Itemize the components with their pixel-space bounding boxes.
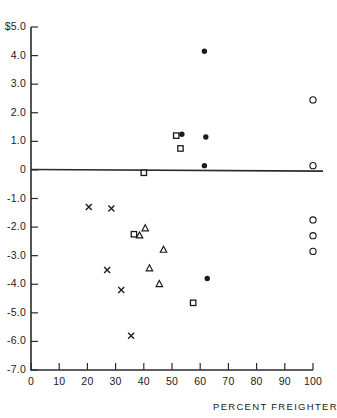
y-axis-tick-label: 0: [0, 163, 26, 175]
axis-frame: [31, 27, 313, 370]
series-open-triangle: [136, 225, 166, 287]
x-axis-title: PERCENT FREIGHTER: [213, 401, 337, 412]
y-axis-tick-label: 4.0: [0, 49, 26, 61]
data-point-open-square: [174, 133, 179, 138]
data-point-cross: [86, 204, 92, 210]
axes-layer: [31, 27, 313, 370]
zero-reference-line: [31, 170, 323, 172]
data-point-cross: [108, 206, 114, 212]
y-axis-tick-label: -5.0: [0, 306, 26, 318]
data-point-cross: [128, 333, 134, 339]
data-point-open-square: [131, 232, 136, 237]
y-axis-tick-label: -1.0: [0, 192, 26, 204]
y-axis-tick-label: -7.0: [0, 363, 26, 375]
scatter-plot-figure: $5.04.03.02.01.00-1.0-2.0-3.0-4.0-5.0-6.…: [0, 0, 337, 418]
x-axis-tick-label: 40: [128, 375, 160, 387]
data-point-filled-circle: [202, 163, 207, 168]
series-open-circle: [310, 97, 316, 255]
zero-reference-line-stroke: [31, 170, 323, 172]
data-point-open-triangle: [156, 281, 162, 287]
y-axis-tick-label: 2.0: [0, 106, 26, 118]
x-axis-tick-label: 80: [241, 375, 273, 387]
data-point-open-circle: [310, 248, 316, 254]
data-point-open-circle: [310, 217, 316, 223]
data-point-open-circle: [310, 97, 316, 103]
x-axis-tick-label: 60: [184, 375, 216, 387]
data-point-filled-circle: [205, 276, 210, 281]
data-point-cross: [118, 287, 124, 293]
y-axis-tick-label: 3.0: [0, 77, 26, 89]
y-axis-tick-label: -4.0: [0, 277, 26, 289]
x-axis-tick-label: 20: [71, 375, 103, 387]
data-markers-layer: [86, 49, 316, 339]
x-axis-tick-label: 30: [100, 375, 132, 387]
series-open-square: [131, 133, 196, 306]
data-point-open-square: [141, 170, 146, 175]
data-point-open-triangle: [142, 225, 148, 231]
y-axis-tick-label: 1.0: [0, 134, 26, 146]
y-axis-tick-label: -3.0: [0, 249, 26, 261]
data-point-open-circle: [310, 233, 316, 239]
y-axis-tick-label: $5.0: [0, 20, 26, 32]
x-axis-tick-label: 70: [212, 375, 244, 387]
data-point-filled-circle: [202, 49, 207, 54]
x-axis-tick-label: 10: [43, 375, 75, 387]
x-axis-tick-label: 100: [297, 375, 329, 387]
data-point-open-circle: [310, 163, 316, 169]
data-point-filled-circle: [203, 134, 208, 139]
data-point-open-triangle: [146, 265, 152, 271]
data-point-open-square: [190, 300, 195, 305]
series-filled-circle: [179, 49, 210, 282]
series-cross: [86, 204, 134, 339]
data-point-open-square: [178, 146, 183, 151]
data-point-open-triangle: [160, 246, 166, 252]
y-axis-tick-label: -2.0: [0, 220, 26, 232]
plot-canvas: [0, 0, 337, 418]
x-axis-tick-label: 90: [269, 375, 301, 387]
x-axis-tick-label: 50: [156, 375, 188, 387]
data-point-open-triangle: [136, 232, 142, 238]
y-axis-tick-label: -6.0: [0, 334, 26, 346]
x-axis-tick-label: 0: [15, 375, 47, 387]
data-point-cross: [104, 267, 110, 273]
data-point-filled-circle: [179, 131, 184, 136]
